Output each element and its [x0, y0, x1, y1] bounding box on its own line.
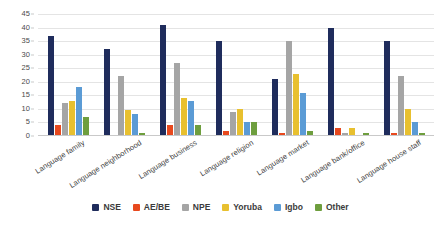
legend-swatch-icon	[92, 204, 99, 211]
bar[interactable]	[174, 63, 180, 136]
y-axis-tick-label: 20	[21, 78, 30, 86]
bar[interactable]	[293, 74, 299, 136]
bar-group	[96, 14, 152, 136]
y-axis-tick-label: 15	[21, 91, 30, 99]
x-axis-label: Language religion	[198, 138, 255, 178]
legend-swatch-icon	[315, 204, 322, 211]
bar[interactable]	[328, 28, 334, 136]
bar[interactable]	[216, 41, 222, 136]
y-axis: 051015202530354045	[0, 14, 34, 136]
y-axis-tick-label: 45	[21, 10, 30, 18]
legend-swatch-icon	[182, 204, 189, 211]
y-axis-tick-label: 25	[21, 64, 30, 72]
y-axis-tick-label: 35	[21, 37, 30, 45]
bar-groups	[38, 14, 434, 136]
legend-swatch-icon	[222, 204, 229, 211]
bar[interactable]	[237, 109, 243, 136]
bar[interactable]	[160, 25, 166, 136]
legend-item[interactable]: Igbo	[274, 203, 303, 212]
bar[interactable]	[300, 93, 306, 136]
y-axis-tick-mark	[31, 54, 34, 55]
bar[interactable]	[132, 114, 138, 136]
bar[interactable]	[76, 87, 82, 136]
bar[interactable]	[181, 98, 187, 136]
y-axis-tick-mark	[31, 108, 34, 109]
bar-group	[376, 14, 432, 136]
bar-group	[264, 14, 320, 136]
bar-chart: 051015202530354045 Language familyLangua…	[0, 0, 441, 231]
bar[interactable]	[69, 101, 75, 136]
bar[interactable]	[48, 36, 54, 136]
bar[interactable]	[251, 122, 257, 136]
bar-group	[152, 14, 208, 136]
bar[interactable]	[272, 79, 278, 136]
y-axis-tick-label: 10	[21, 105, 30, 113]
bar[interactable]	[244, 122, 250, 136]
bar[interactable]	[188, 101, 194, 136]
bar[interactable]	[398, 76, 404, 136]
x-axis-label: Language market	[255, 138, 311, 177]
y-axis-tick-mark	[31, 136, 34, 137]
y-axis-tick-mark	[31, 14, 34, 15]
y-axis-tick-mark	[31, 81, 34, 82]
legend-item[interactable]: NSE	[92, 203, 120, 212]
y-axis-tick-mark	[31, 41, 34, 42]
legend-label: Igbo	[285, 203, 303, 212]
legend-label: NPE	[193, 203, 210, 212]
y-axis-tick-label: 0	[26, 132, 30, 140]
bar[interactable]	[405, 109, 411, 136]
legend-item[interactable]: Other	[315, 203, 349, 212]
bar[interactable]	[83, 117, 89, 136]
y-axis-tick-label: 5	[26, 118, 30, 126]
y-axis-tick-label: 40	[21, 24, 30, 32]
bar[interactable]	[384, 41, 390, 136]
y-axis-tick-mark	[31, 27, 34, 28]
legend-swatch-icon	[133, 204, 140, 211]
y-axis-tick-mark	[31, 122, 34, 123]
bar[interactable]	[230, 112, 236, 136]
bar[interactable]	[412, 122, 418, 136]
bar[interactable]	[118, 76, 124, 136]
legend-label: NSE	[103, 203, 120, 212]
legend-label: AE/BE	[144, 203, 170, 212]
bar[interactable]	[104, 49, 110, 136]
legend-item[interactable]: NPE	[182, 203, 210, 212]
bar-group	[208, 14, 264, 136]
plot-area	[38, 14, 434, 136]
legend-item[interactable]: AE/BE	[133, 203, 170, 212]
bar[interactable]	[62, 103, 68, 136]
x-axis-label: Language family	[34, 138, 87, 176]
bar[interactable]	[286, 41, 292, 136]
bar-group	[40, 14, 96, 136]
y-axis-tick-label: 30	[21, 51, 30, 59]
legend-label: Other	[326, 203, 349, 212]
legend-label: Yoruba	[233, 203, 262, 212]
bar[interactable]	[125, 110, 131, 136]
chart-legend: NSEAE/BENPEYorubaIgboOther	[0, 203, 441, 212]
y-axis-tick-mark	[31, 68, 34, 69]
legend-swatch-icon	[274, 204, 281, 211]
y-axis-tick-mark	[31, 95, 34, 96]
legend-item[interactable]: Yoruba	[222, 203, 262, 212]
x-axis-label: Language business	[137, 138, 198, 181]
x-axis-labels: Language familyLanguage neighborhoodLang…	[38, 136, 434, 198]
bar-group	[320, 14, 376, 136]
